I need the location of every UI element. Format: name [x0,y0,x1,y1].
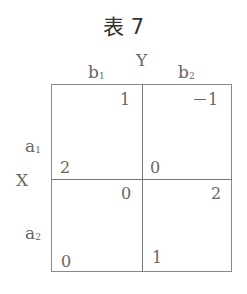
row-player-label: X [16,172,28,189]
payoff-a1-b1-y: 1 [120,92,130,108]
payoff-a1-b2-y: －1 [192,92,218,108]
payoff-a2-b1-y: 0 [121,186,131,202]
column-header-b2: b2 [178,64,195,81]
payoff-a1-b2-x: 0 [150,160,160,176]
payoff-a2-b2-y: 2 [211,186,221,202]
payoff-a2-b2-x: 1 [152,250,162,266]
column-header-b1-sub: 1 [99,71,105,81]
row-header-a2: a2 [25,225,41,242]
payoff-a1-b1-x: 2 [60,160,70,176]
row-header-a1-letter: a [25,136,35,156]
row-header-a1-sub: 1 [35,145,41,155]
column-player-label: Y [136,52,147,69]
row-header-a2-letter: a [25,223,35,243]
matrix-vertical-divider [142,84,143,272]
column-header-b2-letter: b [178,62,189,82]
row-header-a1: a1 [25,138,41,155]
row-header-a2-sub: 2 [35,232,41,242]
column-header-b1-letter: b [88,62,99,82]
table-title: 表 7 [0,10,247,40]
payoff-a2-b1-x: 0 [61,254,71,270]
column-header-b2-sub: 2 [189,71,195,81]
column-header-b1: b1 [88,64,105,81]
matrix-horizontal-divider [51,179,232,180]
